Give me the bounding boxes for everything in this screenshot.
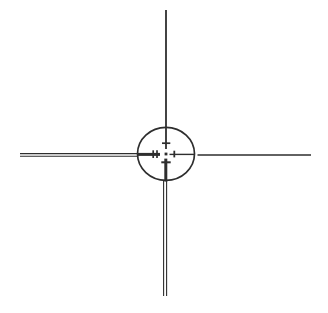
crosshair-reticle-diagram [0, 0, 328, 313]
center-dot [165, 153, 168, 156]
reticle-figure [0, 0, 328, 313]
